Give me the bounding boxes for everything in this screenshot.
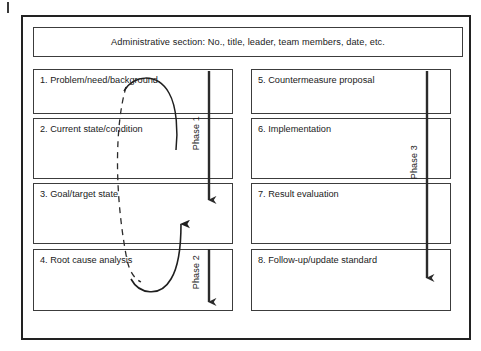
administrative-section-box: Administrative section: No., title, lead…: [33, 27, 463, 57]
step-box-3[interactable]: 3. Goal/target state: [33, 183, 233, 244]
step-box-2[interactable]: 2. Current state/condition: [33, 118, 233, 179]
step-box-6-label: 6. Implementation: [258, 124, 331, 134]
step-box-8-label: 8. Follow-up/update standard: [258, 255, 377, 265]
step-box-5-label: 5. Countermeasure proposal: [258, 75, 374, 85]
phase-2-label: Phase 2: [191, 255, 201, 289]
step-box-5[interactable]: 5. Countermeasure proposal: [251, 69, 451, 114]
administrative-section-label: Administrative section: No., title, lead…: [111, 37, 385, 47]
page-edge-tick-mark: [7, 2, 9, 13]
step-box-3-label: 3. Goal/target state: [40, 189, 118, 199]
step-box-4-label: 4. Root cause analysis: [40, 255, 132, 265]
step-box-4[interactable]: 4. Root cause analysis: [33, 249, 233, 311]
diagram-frame: Administrative section: No., title, lead…: [21, 15, 471, 340]
step-box-2-label: 2. Current state/condition: [40, 124, 143, 134]
step-box-1-label: 1. Problem/need/background: [40, 75, 158, 85]
step-box-8[interactable]: 8. Follow-up/update standard: [251, 249, 451, 311]
phase-3-label: Phase 3: [409, 145, 419, 179]
step-box-1[interactable]: 1. Problem/need/background: [33, 69, 233, 114]
phase-1-label: Phase 1: [191, 116, 201, 150]
step-box-7-label: 7. Result evaluation: [258, 189, 339, 199]
step-box-7[interactable]: 7. Result evaluation: [251, 183, 451, 244]
step-box-6[interactable]: 6. Implementation: [251, 118, 451, 179]
